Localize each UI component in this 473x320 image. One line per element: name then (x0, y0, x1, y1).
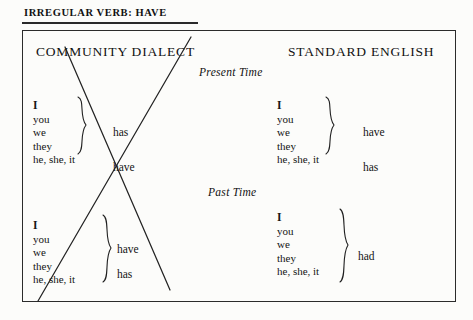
cross-out-annotation (0, 0, 473, 320)
